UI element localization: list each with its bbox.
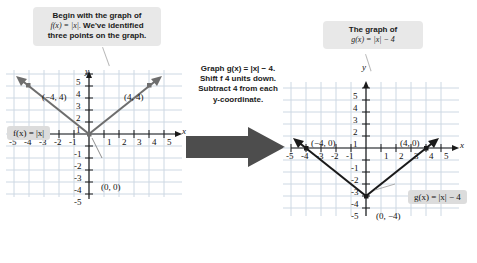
right-xtick-2: 2 bbox=[399, 151, 404, 161]
figure-canvas: Begin with the graph of f(x) = |x|. We'v… bbox=[0, 0, 477, 263]
middle-line2: Shift f 4 units down. bbox=[186, 74, 290, 84]
right-y-axis-label: y bbox=[362, 62, 366, 72]
right-xtick-4: 4 bbox=[429, 151, 434, 161]
right-x-axis-label: x bbox=[460, 140, 464, 150]
right-ytick--4: -4 bbox=[351, 199, 359, 209]
left-callout-eq: f(x) = |x|. bbox=[50, 21, 80, 30]
right-point-label-0-neg4: (0, −4) bbox=[376, 211, 401, 221]
left-ytick-5: 5 bbox=[76, 77, 81, 87]
right-ytick--3: -3 bbox=[351, 187, 359, 197]
right-point-marker-vertex bbox=[364, 194, 369, 199]
right-callout-box: The graph of g(x) = |x| − 4 bbox=[323, 21, 423, 49]
left-ytick--5: -5 bbox=[74, 197, 82, 207]
middle-instruction: Graph g(x) = |x| − 4. Shift f 4 units do… bbox=[186, 64, 290, 105]
left-point-label-neg4-4: (−4, 4) bbox=[42, 92, 67, 102]
left-point-label-0-0: (0, 0) bbox=[101, 182, 121, 192]
right-xtick--3: -3 bbox=[316, 151, 324, 161]
middle-line3: Subtract 4 from each bbox=[186, 84, 290, 94]
left-ytick-4: 4 bbox=[76, 89, 81, 99]
left-xtick-4: 4 bbox=[152, 137, 157, 147]
left-xtick-5: 5 bbox=[167, 137, 172, 147]
right-xtick--4: -4 bbox=[301, 151, 309, 161]
right-ytick-4: 4 bbox=[353, 103, 358, 113]
right-x-axis-arrow bbox=[452, 145, 459, 151]
left-callout-line1: Begin with the graph of bbox=[39, 11, 155, 21]
right-function-label: g(x) = |x| − 4 bbox=[408, 190, 467, 204]
right-point-marker-b bbox=[424, 146, 429, 151]
left-callout-line2: f(x) = |x|. We've identified bbox=[39, 21, 155, 31]
left-origin-leader bbox=[92, 138, 102, 158]
right-xtick--2: -2 bbox=[331, 151, 339, 161]
left-ytick-3: 3 bbox=[76, 101, 81, 111]
right-point-marker-a bbox=[304, 146, 309, 151]
left-y-axis-label: y bbox=[85, 66, 89, 76]
right-xtick-3: 3 bbox=[414, 151, 419, 161]
left-point-marker-b bbox=[147, 83, 152, 88]
right-xtick--5: -5 bbox=[286, 151, 294, 161]
middle-line4: y-coordinate. bbox=[186, 95, 290, 105]
left-point-marker-a bbox=[26, 83, 31, 88]
left-ytick-1: 1 bbox=[76, 125, 81, 135]
right-ytick--1: -1 bbox=[351, 163, 359, 173]
left-callout-box: Begin with the graph of f(x) = |x|. We'v… bbox=[33, 7, 161, 46]
left-xtick--1: -1 bbox=[69, 137, 77, 147]
right-ytick-2: 2 bbox=[353, 127, 358, 137]
right-point-label-neg4-0: (−4, 0) bbox=[311, 138, 336, 148]
left-xtick-1: 1 bbox=[107, 137, 112, 147]
right-xtick--1: -1 bbox=[346, 151, 354, 161]
right-callout-eq: g(x) = |x| − 4 bbox=[329, 35, 417, 45]
right-block-arrow bbox=[186, 126, 286, 172]
left-function-label: f(x) = |x| bbox=[7, 126, 50, 140]
left-x-axis-arrow bbox=[175, 131, 182, 137]
left-ytick--3: -3 bbox=[74, 173, 82, 183]
left-ytick--4: -4 bbox=[74, 185, 82, 195]
left-ytick-2: 2 bbox=[76, 113, 81, 123]
right-xtick-1: 1 bbox=[384, 151, 389, 161]
left-point-label-4-4: (4, 4) bbox=[124, 92, 144, 102]
left-ytick--2: -2 bbox=[74, 161, 82, 171]
middle-line1: Graph g(x) = |x| − 4. bbox=[186, 64, 290, 74]
right-ytick-5: 5 bbox=[353, 91, 358, 101]
right-callout-line1: The graph of bbox=[329, 25, 417, 35]
left-point-marker-origin bbox=[87, 132, 92, 137]
right-callout-pointer bbox=[365, 54, 372, 71]
right-point-label-4-0: (4, 0) bbox=[400, 138, 420, 148]
left-callout-line3: three points on the graph. bbox=[39, 31, 155, 41]
left-xtick--2: -2 bbox=[54, 137, 62, 147]
right-ytick-1: 1 bbox=[353, 139, 358, 149]
right-xtick-5: 5 bbox=[444, 151, 449, 161]
right-ytick--5: -5 bbox=[351, 211, 359, 221]
left-xtick-3: 3 bbox=[137, 137, 142, 147]
right-ytick--2: -2 bbox=[351, 175, 359, 185]
left-callout-line2b: We've identified bbox=[81, 21, 144, 30]
left-xtick-2: 2 bbox=[122, 137, 127, 147]
right-ytick-3: 3 bbox=[353, 115, 358, 125]
left-ytick--1: -1 bbox=[74, 149, 82, 159]
right-y-axis-arrow bbox=[363, 81, 369, 88]
left-callout-pointer bbox=[102, 47, 110, 66]
